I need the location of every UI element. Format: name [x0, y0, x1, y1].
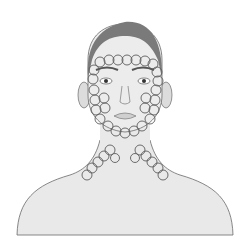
illustration-canvas — [0, 0, 249, 252]
shoulders — [17, 140, 233, 235]
face-massage-diagram — [0, 0, 249, 252]
